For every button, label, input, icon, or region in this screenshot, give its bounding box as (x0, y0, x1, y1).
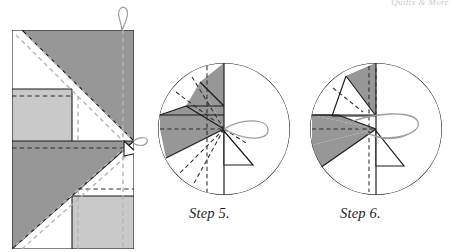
edge-left-slant-5 (160, 106, 186, 115)
circle-outline-6 (310, 63, 442, 195)
wedge-dark-left (160, 106, 224, 129)
edge-upper-left-6 (332, 76, 346, 116)
white-right-half (224, 60, 295, 200)
needle-triangle-6 (376, 131, 404, 166)
dash-diag-a-5 (176, 92, 216, 122)
wedge-dark-left-a-6 (312, 115, 376, 129)
wedge-dark-upper-2 (186, 82, 224, 129)
dash-diag-e-5 (192, 77, 224, 129)
edge-center-diag-6 (338, 115, 376, 129)
light-panel-lower-right (72, 196, 134, 249)
circle-outline-5 (158, 63, 290, 195)
page-root: Quilts & More (0, 0, 457, 252)
thread-loop-5 (224, 121, 268, 138)
edge-upper-diag-6 (346, 76, 376, 116)
thread-loop-mid (133, 138, 147, 146)
wedge-dark-left-c-6 (312, 129, 376, 168)
dash-diag-d-5 (224, 129, 246, 143)
wedge-dark-upper-6 (346, 63, 376, 116)
edge-lower-diag-6 (320, 129, 376, 168)
edge-upper-diag-5 (200, 82, 224, 106)
wedge-dark-left-2 (160, 129, 224, 158)
edge-lower-diag-5 (166, 129, 224, 158)
wedge-dark-upper (200, 63, 224, 129)
wedge-dark-upper-b-6 (346, 63, 376, 116)
wedge-dark-left-b-6 (312, 115, 376, 145)
running-head: Quilts & More (391, 0, 449, 7)
needle-triangle-5 (224, 131, 253, 165)
edge-center-diag-5 (186, 106, 224, 129)
caption-step-5: Step 5. (189, 205, 230, 222)
thread-loop-6 (346, 114, 418, 139)
light-panel-upper-left (12, 89, 72, 141)
dash-diag-a-6 (333, 88, 363, 112)
thread-loop-top (118, 7, 127, 30)
dash-diag-c-5 (193, 129, 224, 185)
white-right-half-6 (376, 60, 447, 200)
caption-step-6: Step 6. (340, 205, 381, 222)
dash-diag-b-5 (178, 129, 224, 175)
folded-fabric-square (0, 0, 160, 252)
